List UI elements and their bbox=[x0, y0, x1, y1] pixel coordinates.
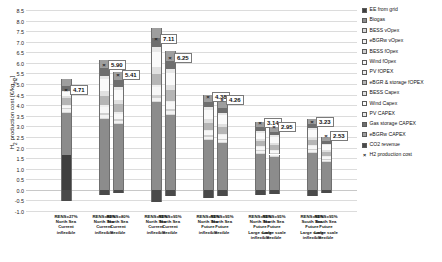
bar-segment bbox=[165, 115, 176, 190]
y-axis-tick-label: 0.5 bbox=[2, 177, 24, 183]
legend-swatch-icon bbox=[362, 91, 367, 96]
legend-label: Gas storage CAPEX bbox=[370, 121, 416, 127]
legend-item[interactable]: Wind fOpex bbox=[362, 59, 442, 65]
legend-label: EE from grid bbox=[370, 7, 398, 13]
h2-cost-marker: × bbox=[64, 87, 68, 93]
stacked-bar[interactable] bbox=[269, 10, 280, 211]
legend-item[interactable]: BESS vOpex bbox=[362, 28, 442, 34]
h2-cost-marker: × bbox=[154, 36, 158, 42]
bar-segment bbox=[151, 98, 162, 101]
bar-segment bbox=[269, 190, 280, 194]
legend-label: H2 production cost bbox=[370, 152, 412, 158]
chart-legend: EE from gridBiogasBESS vOpexeBGRw vOpexB… bbox=[362, 7, 442, 163]
bar-segment bbox=[151, 74, 162, 86]
bar-segment bbox=[307, 130, 318, 137]
stacked-bar[interactable] bbox=[99, 10, 110, 211]
bar-segment bbox=[307, 145, 318, 146]
bar-segment bbox=[165, 101, 176, 103]
bar-segment bbox=[255, 133, 266, 139]
bar-segment bbox=[203, 123, 214, 130]
bar-segment bbox=[321, 190, 332, 194]
bar-segment bbox=[113, 119, 124, 121]
bar-segment bbox=[113, 114, 124, 119]
bar-segment bbox=[99, 79, 110, 91]
legend-item[interactable]: Gas storage CAPEX bbox=[362, 121, 442, 127]
legend-item[interactable]: BESS Capex bbox=[362, 90, 442, 96]
bar-segment bbox=[165, 69, 176, 73]
legend-item[interactable]: eBGR & storage fOPEX bbox=[362, 80, 442, 86]
x-axis-label: RENS=95%North SeaFutureLarge scaleflexib… bbox=[257, 214, 291, 240]
bar-segment bbox=[203, 131, 214, 136]
bar-segment bbox=[61, 109, 72, 112]
legend-item[interactable]: eBGRw CAPEX bbox=[362, 132, 442, 138]
bar-segment bbox=[113, 100, 124, 104]
bar-segment bbox=[217, 140, 228, 142]
legend-item[interactable]: ×H2 production cost bbox=[362, 152, 442, 158]
legend-swatch-icon bbox=[362, 132, 367, 137]
bar-segment bbox=[321, 162, 332, 190]
bar-segment bbox=[321, 160, 332, 161]
y-axis-tick-label: 5.0 bbox=[2, 82, 24, 88]
legend-label: BESS fOpex bbox=[370, 49, 399, 55]
bar-segment bbox=[113, 87, 124, 90]
bar-segment bbox=[113, 121, 124, 124]
x-axis-label: RENS=27%North SeaCurrentinflexible bbox=[49, 214, 83, 235]
legend-swatch-icon bbox=[362, 122, 367, 127]
x-axis-label-line: flexible bbox=[257, 235, 291, 240]
bar-segment bbox=[151, 95, 162, 98]
legend-swatch-icon bbox=[362, 70, 367, 75]
legend-swatch-icon bbox=[362, 143, 367, 148]
legend-item[interactable]: EE from grid bbox=[362, 7, 442, 13]
x-axis-label-line: flexible bbox=[101, 230, 135, 235]
h2-cost-marker: × bbox=[102, 62, 106, 68]
y-axis-tick-label: 7.0 bbox=[2, 40, 24, 46]
stacked-bar[interactable] bbox=[61, 10, 72, 211]
bar-segment bbox=[61, 190, 72, 201]
bar-segment bbox=[203, 190, 214, 198]
bar-segment bbox=[165, 90, 176, 100]
bar-segment bbox=[321, 152, 332, 156]
hydrogen-production-cost-chart: H2 production cost [€/kgH2] 8.58.07.57.0… bbox=[0, 0, 442, 262]
bar-segment bbox=[203, 135, 214, 136]
bar-segment bbox=[307, 140, 318, 145]
stacked-bar[interactable] bbox=[321, 10, 332, 211]
bar-segment bbox=[203, 119, 214, 122]
legend-item[interactable]: eBGRw vOpex bbox=[362, 38, 442, 44]
bar-segment bbox=[151, 190, 162, 202]
legend-item[interactable]: PV CAPEX bbox=[362, 111, 442, 117]
bar-segment bbox=[217, 113, 228, 115]
stacked-bar[interactable] bbox=[165, 10, 176, 211]
bar-segment bbox=[255, 150, 266, 151]
stacked-bar[interactable] bbox=[203, 10, 214, 211]
bar-segment bbox=[321, 157, 332, 159]
bar-segment bbox=[255, 139, 266, 141]
legend-item[interactable]: Biogas bbox=[362, 17, 442, 23]
stacked-bar[interactable] bbox=[255, 10, 266, 211]
stacked-bar[interactable] bbox=[307, 10, 318, 211]
bar-segment bbox=[269, 150, 280, 151]
bar-segment bbox=[307, 137, 318, 140]
y-axis-tick-label: 5.5 bbox=[2, 71, 24, 77]
bar-segment bbox=[269, 145, 280, 150]
legend-item[interactable]: Wind Capex bbox=[362, 101, 442, 107]
y-axis-tick-label: 2.5 bbox=[2, 135, 24, 141]
bar-segment bbox=[255, 154, 266, 190]
bar-segment bbox=[321, 145, 332, 150]
bar-segment bbox=[255, 146, 266, 147]
bar-segment bbox=[99, 96, 110, 106]
bar-segment bbox=[269, 143, 280, 145]
legend-item[interactable]: CO2 revenue bbox=[362, 142, 442, 148]
bar-segment bbox=[217, 124, 228, 127]
bar-segment bbox=[113, 112, 124, 113]
y-axis-tick-label: 0.0 bbox=[2, 188, 24, 194]
legend-item[interactable]: BESS fOpex bbox=[362, 49, 442, 55]
stacked-bar[interactable] bbox=[217, 10, 228, 211]
y-axis-tick-label: 1.5 bbox=[2, 156, 24, 162]
bar-segment bbox=[255, 131, 266, 133]
stacked-bar[interactable] bbox=[113, 10, 124, 211]
y-axis-tick-label: 1.0 bbox=[2, 167, 24, 173]
y-axis-tick-label: 3.0 bbox=[2, 124, 24, 130]
legend-swatch-icon bbox=[362, 60, 367, 65]
bar-segment bbox=[165, 73, 176, 86]
legend-item[interactable]: PV fOPEX bbox=[362, 69, 442, 75]
